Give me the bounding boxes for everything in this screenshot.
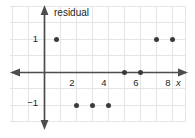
x-tick-label-2: 2 — [69, 78, 74, 88]
y-tick-label-1: 1 — [28, 34, 38, 44]
y-tick-label-minus-1: −1 — [24, 98, 38, 108]
residual-plot-figure: residual x 1 −1 2 4 6 8 — [0, 0, 195, 138]
x-tick-label-6: 6 — [133, 78, 138, 88]
x-tick-label-8: 8 — [165, 78, 170, 88]
x-axis-label: x — [176, 78, 181, 88]
y-axis-title: residual — [54, 8, 89, 18]
x-tick-label-4: 4 — [101, 78, 106, 88]
